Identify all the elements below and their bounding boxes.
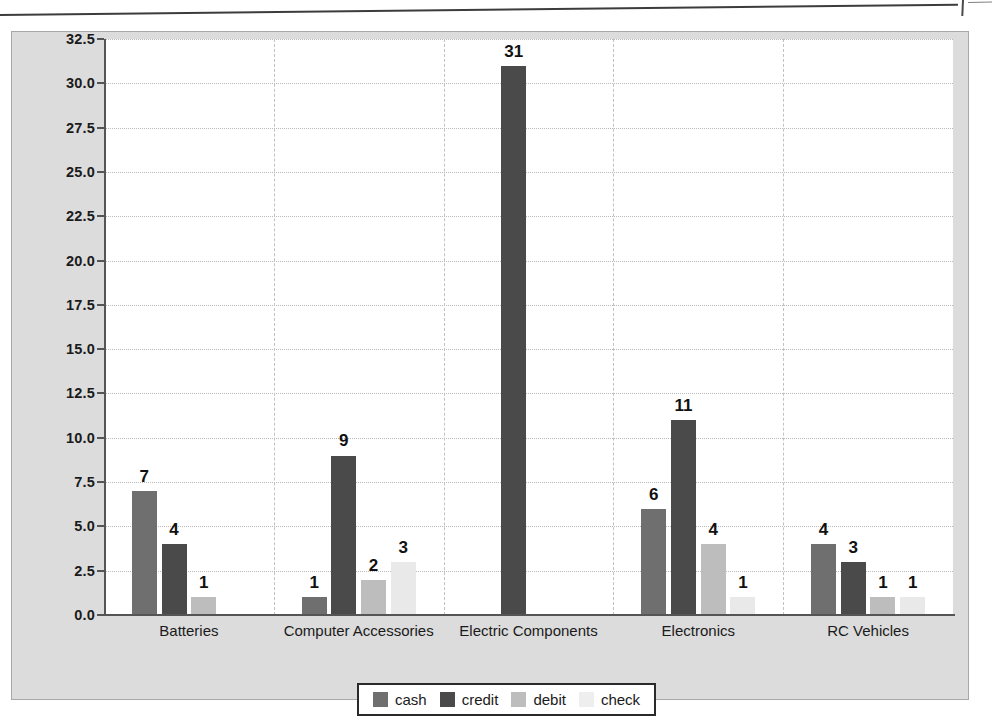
bar-value-label: 1 xyxy=(878,573,887,593)
screenshot-root: 0.02.55.07.510.012.515.017.520.022.525.0… xyxy=(0,0,993,727)
y-axis-tick-mark xyxy=(97,392,104,394)
bar-debit xyxy=(191,597,216,615)
x-axis-label-row: BatteriesComputer AccessoriesElectric Co… xyxy=(104,622,953,648)
chart-panel: 0.02.55.07.510.012.515.017.520.022.525.0… xyxy=(11,31,969,700)
legend-swatch-cash-icon xyxy=(373,692,388,707)
bar-check xyxy=(730,597,755,615)
bar-value-label: 4 xyxy=(708,520,717,540)
bar-check xyxy=(391,562,416,615)
y-axis-tick-label: 7.5 xyxy=(74,474,95,490)
y-tick-marks xyxy=(97,39,106,615)
scan-page-edge-line xyxy=(0,4,958,16)
y-axis-tick-label: 17.5 xyxy=(66,297,95,313)
y-axis-tick-mark xyxy=(97,304,104,306)
gridline xyxy=(104,83,953,84)
y-axis-tick-mark xyxy=(97,127,104,129)
scan-page-corner-line xyxy=(961,0,963,16)
bar-value-label: 1 xyxy=(908,573,917,593)
x-axis-category-label: Electronics xyxy=(662,622,735,639)
legend-label: credit xyxy=(462,691,499,708)
x-axis-line xyxy=(104,614,955,616)
legend-label: cash xyxy=(395,691,427,708)
y-axis-tick-mark xyxy=(97,525,104,527)
y-axis-tick-mark xyxy=(97,437,104,439)
x-axis-category-label: Computer Accessories xyxy=(284,622,434,639)
legend-swatch-check-icon xyxy=(579,692,594,707)
y-axis-tick-label: 10.0 xyxy=(66,430,95,446)
y-axis-tick-label: 20.0 xyxy=(66,253,95,269)
y-axis-tick-label: 22.5 xyxy=(66,208,95,224)
bar-value-label: 1 xyxy=(309,573,318,593)
bar-credit xyxy=(162,544,187,615)
bar-value-label: 11 xyxy=(674,396,692,416)
legend-label: debit xyxy=(533,691,566,708)
legend-swatch-debit-icon xyxy=(511,692,526,707)
bar-value-label: 4 xyxy=(819,520,828,540)
y-axis-tick-mark xyxy=(97,260,104,262)
bar-cash xyxy=(811,544,836,615)
y-axis-tick-label: 5.0 xyxy=(74,518,95,534)
y-axis-tick-mark xyxy=(97,570,104,572)
bar-credit xyxy=(501,66,526,615)
y-axis-label-column: 0.02.55.07.510.012.515.017.520.022.525.0… xyxy=(12,39,95,615)
y-axis-tick-label: 0.0 xyxy=(74,607,95,623)
bar-value-label: 1 xyxy=(199,573,208,593)
scan-page-top-tick xyxy=(968,2,992,4)
category-separator xyxy=(274,39,275,615)
bar-value-label: 1 xyxy=(738,573,747,593)
y-axis-tick-label: 15.0 xyxy=(66,341,95,357)
bar-credit xyxy=(331,456,356,616)
bar-debit xyxy=(701,544,726,615)
legend-item-check[interactable]: check xyxy=(579,691,640,708)
gridline xyxy=(104,216,953,217)
y-axis-tick-label: 30.0 xyxy=(66,75,95,91)
bar-cash xyxy=(641,509,666,615)
bar-check xyxy=(900,597,925,615)
bar-cash xyxy=(132,491,157,615)
y-axis-tick-label: 2.5 xyxy=(74,563,95,579)
bar-debit xyxy=(870,597,895,615)
bar-credit xyxy=(671,420,696,615)
gridline xyxy=(104,393,953,394)
plot-area: 741192331611414311 xyxy=(104,39,953,615)
bar-value-label: 9 xyxy=(339,431,348,451)
y-axis-tick-mark xyxy=(97,348,104,350)
x-axis-category-label: RC Vehicles xyxy=(827,622,909,639)
y-axis-tick-mark xyxy=(97,171,104,173)
y-axis-tick-label: 27.5 xyxy=(66,120,95,136)
gridline xyxy=(104,172,953,173)
gridline xyxy=(104,39,953,40)
legend-swatch-credit-icon xyxy=(440,692,455,707)
category-separator xyxy=(613,39,614,615)
gridline xyxy=(104,482,953,483)
category-separator xyxy=(444,39,445,615)
bar-value-label: 7 xyxy=(140,467,149,487)
legend-item-credit[interactable]: credit xyxy=(440,691,499,708)
y-axis-tick-mark xyxy=(97,215,104,217)
y-axis-tick-label: 12.5 xyxy=(66,385,95,401)
legend-item-cash[interactable]: cash xyxy=(373,691,427,708)
bar-debit xyxy=(361,580,386,615)
bar-value-label: 2 xyxy=(369,556,378,576)
y-axis-tick-label: 32.5 xyxy=(66,31,95,47)
y-axis-tick-mark xyxy=(97,82,104,84)
x-axis-category-label: Electric Components xyxy=(459,622,597,639)
gridline xyxy=(104,438,953,439)
gridline xyxy=(104,261,953,262)
y-axis-tick-mark xyxy=(97,38,104,40)
bar-value-label: 6 xyxy=(649,485,658,505)
bar-value-label: 3 xyxy=(849,538,858,558)
bar-cash xyxy=(302,597,327,615)
bar-value-label: 31 xyxy=(504,42,523,62)
chart-legend: cashcreditdebitcheck xyxy=(357,683,656,716)
x-axis-category-label: Batteries xyxy=(159,622,218,639)
y-axis-tick-label: 25.0 xyxy=(66,164,95,180)
gridline xyxy=(104,128,953,129)
legend-item-debit[interactable]: debit xyxy=(511,691,566,708)
y-axis-tick-mark xyxy=(97,481,104,483)
bar-value-label: 3 xyxy=(399,538,408,558)
category-separator xyxy=(783,39,784,615)
legend-label: check xyxy=(601,691,640,708)
bar-value-label: 4 xyxy=(169,520,178,540)
bar-credit xyxy=(841,562,866,615)
